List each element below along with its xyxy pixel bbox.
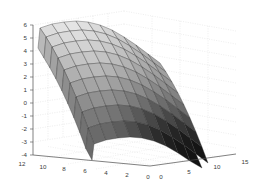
z-tick-label: -4 (21, 151, 27, 158)
x-tick-label: 2 (125, 171, 129, 178)
y-tick-label: 0 (159, 173, 163, 180)
y-tick-label: 10 (214, 163, 221, 170)
x-tick-label: 12 (19, 160, 26, 167)
z-tick-label: -1 (21, 112, 27, 119)
z-tick-label: 2 (24, 73, 28, 80)
x-tick-label: 8 (62, 165, 66, 172)
z-tick-labels: 6 5 4 3 2 1 0 -1 -2 -3 -4 (21, 21, 27, 158)
z-tick-label: 1 (24, 86, 28, 93)
z-tick-label: -3 (21, 138, 27, 145)
figure-canvas: 6 5 4 3 2 1 0 -1 -2 -3 -4 12 10 8 6 4 2 … (0, 0, 256, 183)
x-tick-label: 10 (40, 163, 47, 170)
z-tick-label: 3 (24, 60, 28, 67)
x-tick-label: 6 (83, 167, 87, 174)
z-tick-marks (30, 25, 33, 155)
y-tick-label: 5 (187, 168, 191, 175)
z-tick-label: 4 (24, 47, 28, 54)
x-tick-label: 0 (146, 173, 150, 180)
z-tick-label: -2 (21, 125, 27, 132)
z-tick-label: 5 (24, 34, 28, 41)
y-tick-labels: 0 5 10 15 (159, 158, 249, 180)
y-tick-label: 15 (242, 158, 249, 165)
z-tick-label: 6 (24, 21, 28, 28)
z-tick-label: 0 (24, 99, 28, 106)
x-tick-label: 4 (104, 169, 108, 176)
x-tick-labels: 12 10 8 6 4 2 0 (19, 160, 151, 180)
surface-mesh (38, 21, 208, 168)
surface-plot-3d: 6 5 4 3 2 1 0 -1 -2 -3 -4 12 10 8 6 4 2 … (0, 0, 256, 183)
